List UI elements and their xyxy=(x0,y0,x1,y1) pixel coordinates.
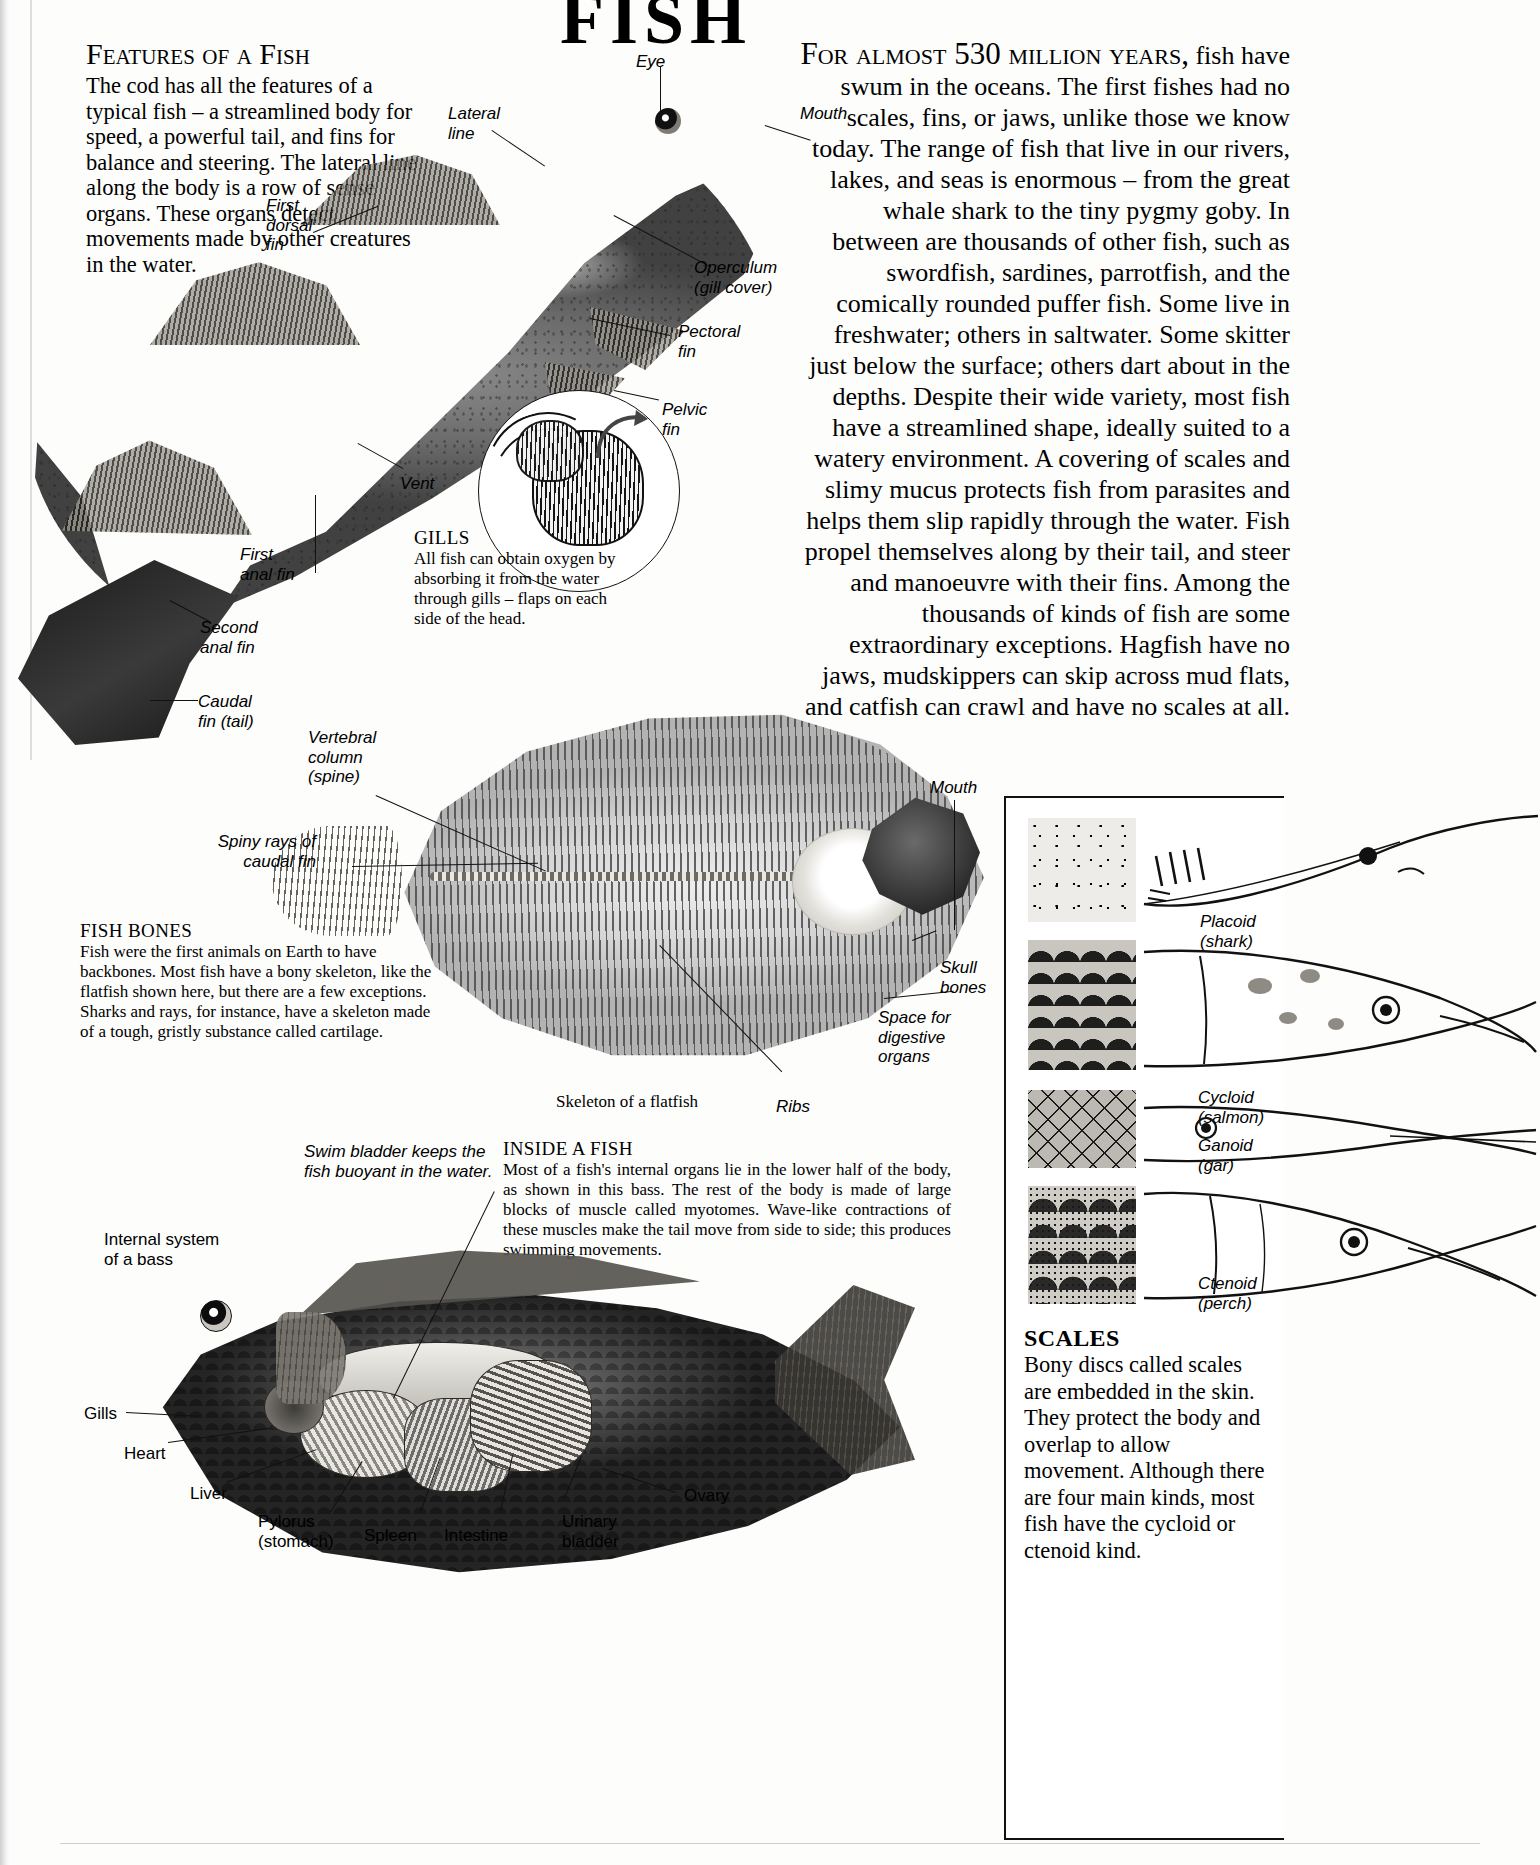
swatch-placoid xyxy=(1028,818,1136,922)
leader-eye xyxy=(660,66,661,114)
label-pylorus: Pylorus (stomach) xyxy=(258,1512,334,1552)
scale-animal-ganoid: (gar) xyxy=(1198,1156,1234,1175)
scale-name-ctenoid: Ctenoid xyxy=(1198,1274,1257,1293)
label-space-digestive: Space for digestive organs xyxy=(878,1008,951,1067)
inside-a-fish-heading: INSIDE A FISH xyxy=(503,1138,955,1160)
label-skull-bones: Skull bones xyxy=(940,958,986,997)
label-intestine: Intestine xyxy=(444,1526,508,1546)
page-gutter-shadow xyxy=(0,0,10,1865)
leader-mouth-flatfish xyxy=(954,800,955,930)
label-liver: Liver xyxy=(190,1484,227,1504)
encyclopedia-page: FISH Features of a Fish The cod has all … xyxy=(0,0,1540,1865)
label-mouth-flatfish: Mouth xyxy=(930,778,977,798)
scales-heading: SCALES xyxy=(1024,1324,1274,1352)
scale-name-ganoid: Ganoid xyxy=(1198,1136,1253,1155)
water-flow-arrow-icon xyxy=(592,408,652,468)
label-urinary-bladder: Urinary bladder xyxy=(562,1512,619,1552)
label-caudal-fin: Caudal fin (tail) xyxy=(198,692,254,731)
leader-caudal-fin xyxy=(150,700,198,701)
label-pectoral-fin: Pectoral fin xyxy=(678,322,740,361)
leader-first-anal-fin xyxy=(315,495,316,573)
swatch-ctenoid xyxy=(1028,1186,1136,1304)
bass-eye-art xyxy=(200,1300,232,1332)
features-heading: Features of a Fish xyxy=(86,38,436,70)
gills-body: All fish can obtain oxygen by absorbing … xyxy=(414,549,629,629)
label-ribs: Ribs xyxy=(776,1097,810,1117)
bass-ovary-art xyxy=(470,1360,592,1472)
leader-vent xyxy=(358,443,404,469)
features-section: Features of a Fish The cod has all the f… xyxy=(86,38,436,277)
intro-section: For almost 530 million years, fish have … xyxy=(800,38,1290,722)
intro-body: fish have swum in the oceans. The first … xyxy=(805,41,1290,721)
flatfish-caption: Skeleton of a flatfish xyxy=(556,1092,698,1112)
label-gills-bass: Gills xyxy=(84,1404,117,1424)
label-operculum: Operculum (gill cover) xyxy=(694,258,777,297)
cod-eye-art xyxy=(655,108,681,134)
label-second-anal-fin: Second anal fin xyxy=(200,618,258,657)
scales-caption: SCALES Bony discs called scales are embe… xyxy=(1024,1324,1274,1564)
fish-bones-section: FISH BONES Fish were the first animals o… xyxy=(80,920,450,1042)
fish-bones-heading: FISH BONES xyxy=(80,920,450,942)
label-first-anal-fin: First anal fin xyxy=(240,545,295,584)
inside-a-fish-section: INSIDE A FISH Most of a fish's internal … xyxy=(503,1138,955,1260)
intro-opening: For almost 530 million years, xyxy=(800,36,1189,71)
label-mouth: Mouth xyxy=(800,104,847,124)
label-internal-system: Internal system of a bass xyxy=(104,1230,219,1270)
salmon-head-illustration xyxy=(1140,936,1540,1086)
label-eye: Eye xyxy=(636,52,665,72)
scales-body: Bony discs called scales are embedded in… xyxy=(1024,1352,1274,1564)
label-pelvic-fin: Pelvic fin xyxy=(662,400,707,439)
label-ovary: Ovary xyxy=(684,1486,729,1506)
scale-animal-ctenoid: (perch) xyxy=(1198,1294,1252,1313)
shark-head-illustration xyxy=(1140,812,1540,924)
label-first-dorsal-fin: First dorsal fin xyxy=(266,196,312,255)
swatch-ganoid xyxy=(1028,1090,1136,1168)
cod-third-dorsal-fin-art xyxy=(62,430,252,535)
label-heart: Heart xyxy=(124,1444,166,1464)
label-vertebral-column: Vertebral column (spine) xyxy=(308,728,376,787)
label-spleen: Spleen xyxy=(364,1526,417,1546)
scale-type-ganoid: Ganoid (gar) xyxy=(1198,1136,1253,1175)
scale-name-placoid: Placoid xyxy=(1200,912,1256,931)
page-margin-rule xyxy=(30,0,32,760)
label-vent: Vent xyxy=(400,474,434,494)
fish-bones-body: Fish were the first animals on Earth to … xyxy=(80,942,446,1042)
scale-type-ctenoid: Ctenoid (perch) xyxy=(1198,1274,1257,1313)
inside-a-fish-body: Most of a fish's internal organs lie in … xyxy=(503,1160,951,1260)
gills-caption: GILLS All fish can obtain oxygen by abso… xyxy=(414,527,629,629)
label-swim-bladder: Swim bladder keeps the fish buoyant in t… xyxy=(304,1142,494,1181)
bass-pectoral-fin-art xyxy=(276,1312,346,1404)
label-spiny-rays: Spiny rays of caudal fin xyxy=(130,832,316,871)
label-lateral-line: Lateral line xyxy=(448,104,500,143)
gill-filament-fan-secondary xyxy=(516,420,584,482)
swatch-cycloid xyxy=(1028,940,1136,1070)
page-bottom-rule xyxy=(60,1843,1480,1844)
gills-heading: GILLS xyxy=(414,527,629,549)
